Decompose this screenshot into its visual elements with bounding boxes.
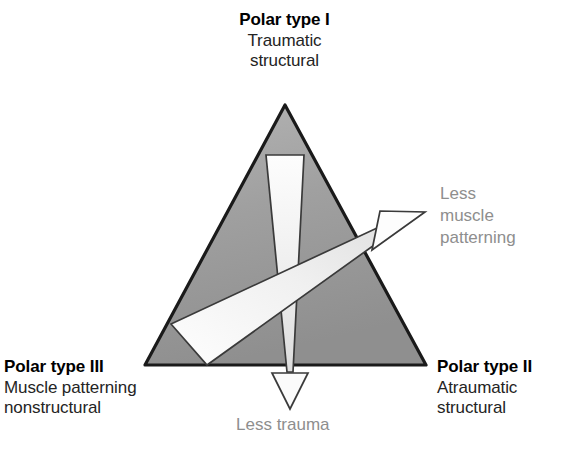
annot-muscle-line-3: patterning [440, 227, 516, 249]
polar-type-2-title: Polar type II [437, 357, 569, 378]
polar-type-1-label: Polar type I Traumatic structural [0, 10, 569, 72]
polar-type-2-subline-2: structural [437, 398, 569, 419]
polar-type-3-subline-2: nonstructural [4, 398, 274, 419]
polar-type-3-subline-1: Muscle patterning [4, 378, 274, 399]
annot-trauma-line-1: Less trauma [236, 415, 330, 434]
polar-type-1-title: Polar type I [0, 10, 569, 31]
polar-type-3-title: Polar type III [4, 357, 274, 378]
polar-type-2-subline-1: Atraumatic [437, 378, 569, 399]
less-trauma-arrowhead [272, 373, 308, 409]
annot-muscle-line-1: Less [440, 183, 516, 205]
less-trauma-annotation: Less trauma [236, 414, 330, 436]
polar-type-3-label: Polar type III Muscle patterning nonstru… [4, 357, 274, 419]
less-muscle-patterning-annotation: Less muscle patterning [440, 183, 516, 248]
polar-type-2-label: Polar type II Atraumatic structural [437, 357, 569, 419]
annot-muscle-line-2: muscle [440, 205, 516, 227]
polar-type-1-subline-2: structural [0, 51, 569, 72]
polar-type-1-subline-1: Traumatic [0, 31, 569, 52]
less-muscle-patterning-arrowhead [372, 211, 425, 250]
triangle-diagram: Polar type I Traumatic structural Polar … [0, 0, 569, 459]
